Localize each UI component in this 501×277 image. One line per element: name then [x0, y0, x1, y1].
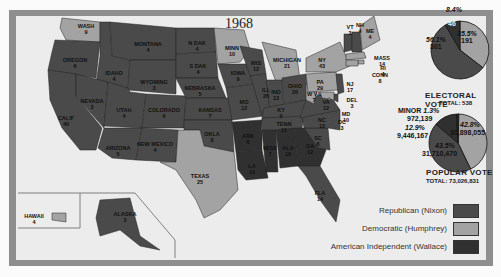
pv-wallace-pct: 12.9%	[405, 124, 425, 131]
state-electoral-votes: 12	[323, 105, 329, 111]
state-electoral-votes: 17	[347, 87, 353, 93]
legend-label: American Independent (Wallace)	[331, 242, 447, 251]
ev-total: TOTAL: 538	[439, 100, 472, 106]
hawaii-inset-border	[18, 193, 80, 228]
state-electoral-votes: 12	[241, 105, 247, 111]
pv-title: POPULAR VOTE	[426, 168, 493, 177]
state-electoral-votes: 9	[279, 113, 282, 119]
state-hawaii	[52, 213, 66, 222]
state-electoral-votes: 6	[246, 139, 249, 145]
state-electoral-votes: 26	[263, 93, 269, 99]
state-electoral-votes: 10	[229, 51, 235, 57]
state-electoral-votes: 26	[292, 89, 298, 95]
state-electoral-votes: 4	[32, 219, 36, 225]
state-electoral-votes: 29	[317, 85, 323, 91]
state-electoral-votes: 5	[116, 151, 119, 157]
state-wash	[60, 18, 100, 42]
state-electoral-votes: 7	[312, 97, 315, 103]
state-electoral-votes: 21	[284, 63, 290, 69]
state-electoral-votes: 7	[208, 113, 211, 119]
pv-minor-name: MINOR	[398, 107, 421, 114]
state-electoral-votes: 43	[319, 63, 325, 69]
pv-minor-label: MINOR 1.3%	[398, 107, 439, 114]
state-electoral-votes: 11	[281, 127, 287, 133]
state-nj	[336, 74, 344, 94]
legend-item-independent: American Independent (Wallace)	[331, 239, 479, 254]
state-electoral-votes: 6	[73, 63, 76, 69]
state-electoral-votes: 3	[340, 125, 343, 131]
state-alaska	[96, 198, 160, 250]
state-arizona	[98, 128, 142, 160]
ev-humphrey-pct: 35.5%	[457, 30, 477, 37]
state-electoral-votes: 12	[307, 149, 313, 155]
legend-swatch-republican	[453, 204, 479, 218]
pv-humphrey-value: 30,898,055	[450, 129, 485, 136]
state-electoral-votes: 8	[316, 141, 319, 147]
state-electoral-votes: 14	[317, 196, 324, 202]
state-electoral-votes: 12	[319, 123, 325, 129]
pv-minor-value: 972,139	[407, 115, 432, 122]
state-electoral-votes: 9	[84, 29, 87, 35]
state-electoral-votes: 3	[123, 217, 126, 223]
ev-wallace-value: 46	[448, 20, 456, 27]
state-electoral-votes: 3	[152, 85, 155, 91]
state-ri	[358, 60, 364, 64]
legend-swatch-independent	[453, 240, 479, 254]
state-ny	[306, 42, 350, 72]
pv-minor-pct: 1.3%	[423, 107, 439, 114]
state-mass	[346, 52, 366, 60]
ev-nixon-value: 301	[426, 43, 446, 50]
state-electoral-votes: 40	[63, 121, 69, 127]
state-electoral-votes: 5	[198, 91, 201, 97]
ev-nixon-label: 56.1% 301	[426, 36, 446, 50]
state-electoral-votes: 3	[90, 104, 93, 110]
state-electoral-votes: 25	[197, 179, 203, 185]
legend-item-republican: Republican (Nixon)	[379, 203, 479, 218]
state-electoral-votes: 13	[273, 95, 279, 101]
state-del	[334, 94, 338, 102]
ev-humphrey-label: 35.5% 191	[457, 30, 477, 44]
pv-total: TOTAL: 73,026,831	[426, 178, 479, 184]
legend-swatch-democratic	[453, 222, 479, 236]
legend-item-democratic: Democratic (Humphrey)	[362, 221, 479, 236]
pv-wallace-value: 9,446,167	[397, 132, 428, 139]
ev-wallace-pct: 8.4%	[446, 6, 462, 13]
legend-label: Democratic (Humphrey)	[362, 224, 447, 233]
ev-humphrey-value: 191	[457, 37, 477, 44]
state-electoral-votes: 8	[210, 137, 213, 143]
state-electoral-votes: 8	[378, 78, 381, 84]
state-vt	[344, 34, 352, 52]
pv-nixon-pct: 43.5%	[435, 142, 455, 149]
state-electoral-votes: 12	[253, 66, 259, 72]
state-electoral-votes: 9	[236, 76, 239, 82]
state-electoral-votes: 10	[285, 151, 291, 157]
state-electoral-votes: 7	[268, 151, 271, 157]
ev-nixon-pct: 56.1%	[426, 36, 446, 43]
legend-label: Republican (Nixon)	[379, 206, 447, 215]
state-electoral-votes: 10	[249, 169, 255, 175]
state-electoral-votes: 3	[350, 103, 353, 109]
state-conn	[346, 60, 358, 66]
pv-nixon-value: 31,710,470	[422, 150, 457, 157]
state-electoral-votes: 3	[348, 30, 351, 36]
state-electoral-votes: 6	[162, 113, 165, 119]
pv-humphrey-pct: 42.8%	[460, 121, 480, 128]
